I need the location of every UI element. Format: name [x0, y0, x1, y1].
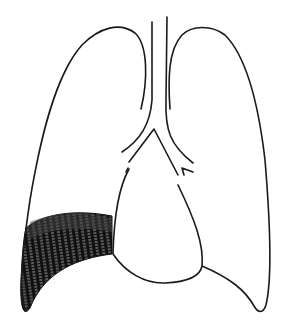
lung-diagram: Frontal diagram of lungs, trachea and he… — [0, 0, 283, 331]
bronchi — [126, 129, 193, 175]
trachea — [122, 17, 193, 163]
shaded-opacity-region — [21, 213, 112, 312]
heart-outline — [113, 169, 202, 283]
